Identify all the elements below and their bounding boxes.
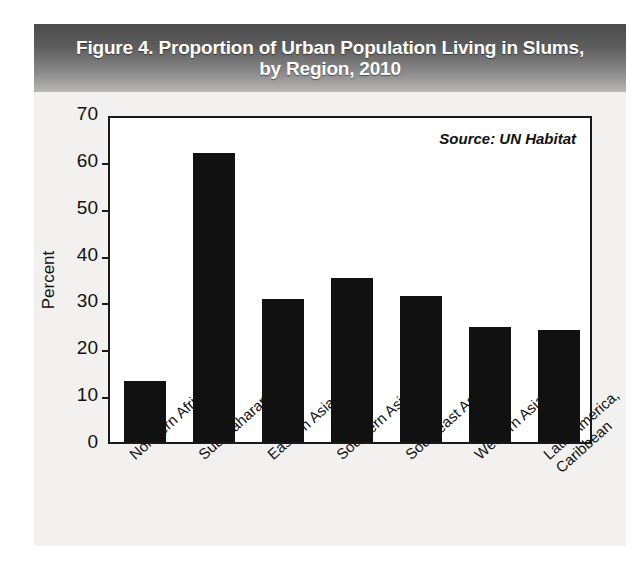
x-axis-labels: Northern AfricaSub-Saharan AfricaEastern… <box>108 444 592 546</box>
y-axis-tick-label: 30 <box>77 290 98 312</box>
plot-area: Source: UN Habitat <box>108 116 592 444</box>
bar <box>331 278 373 442</box>
y-axis-tick-label: 60 <box>77 150 98 172</box>
figure-title: Figure 4. Proportion of Urban Population… <box>58 37 602 80</box>
chart-area: Percent 010203040506070 Source: UN Habit… <box>34 92 626 546</box>
figure-title-line-1: Figure 4. Proportion of Urban Population… <box>76 37 584 58</box>
figure-container: Figure 4. Proportion of Urban Population… <box>34 24 626 546</box>
bars-layer <box>110 118 590 442</box>
y-axis-tick-label: 70 <box>77 103 98 125</box>
y-axis-tick-label: 50 <box>77 197 98 219</box>
y-axis-tick-label: 20 <box>77 337 98 359</box>
y-axis-tick-label: 10 <box>77 384 98 406</box>
y-axis-ticks: 010203040506070 <box>34 116 110 444</box>
figure-title-banner: Figure 4. Proportion of Urban Population… <box>34 24 626 92</box>
y-axis-tick-label: 40 <box>77 244 98 266</box>
y-axis-tick-label: 0 <box>87 431 98 453</box>
figure-title-line-2: by Region, 2010 <box>76 58 584 79</box>
